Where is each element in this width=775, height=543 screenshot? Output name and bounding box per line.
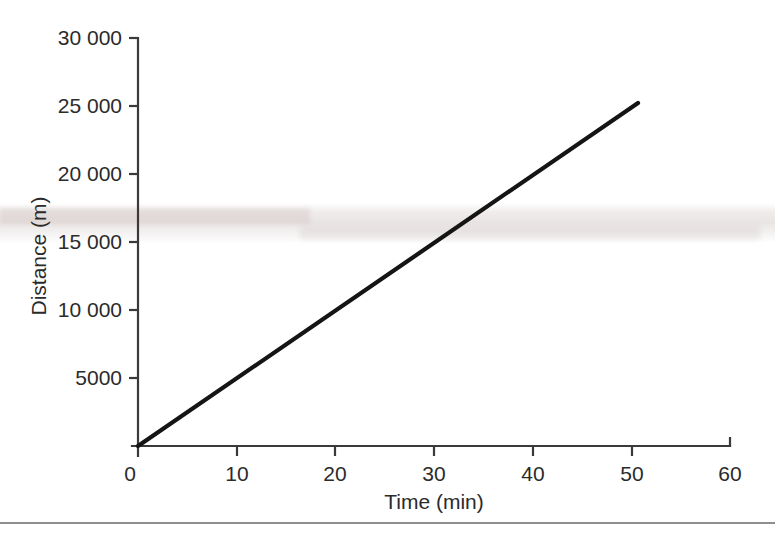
x-tick-label-20: 20 <box>323 462 346 485</box>
y-tick-label-10000: 10 000 <box>58 298 122 321</box>
figure-container: 30 000 25 000 20 000 15 000 10 000 5000 … <box>0 0 775 543</box>
y-tick-label-25000: 25 000 <box>58 94 122 117</box>
x-tick-label-50: 50 <box>620 462 643 485</box>
distance-axis: 30 000 25 000 20 000 15 000 10 000 5000 … <box>27 26 138 456</box>
y-tick-label-20000: 20 000 <box>58 162 122 185</box>
y-tick-label-15000: 15 000 <box>58 230 122 253</box>
page-bottom-rule <box>0 522 775 524</box>
data-line-distance <box>138 103 638 446</box>
x-axis-title: Time (min) <box>384 490 484 513</box>
x-tick-label-10: 10 <box>225 462 248 485</box>
line-chart: 30 000 25 000 20 000 15 000 10 000 5000 … <box>0 0 775 543</box>
x-tick-label-40: 40 <box>521 462 544 485</box>
x-tick-label-30: 30 <box>422 462 445 485</box>
y-axis-title: Distance (m) <box>27 196 50 315</box>
time-axis: 0 10 20 30 40 50 60 Time (min) <box>124 437 742 513</box>
x-tick-label-0: 0 <box>124 462 136 485</box>
series-distance-travelled <box>138 103 638 446</box>
x-tick-label-60: 60 <box>718 462 741 485</box>
y-tick-label-5000: 5000 <box>75 366 122 389</box>
y-tick-label-30000: 30 000 <box>58 26 122 49</box>
